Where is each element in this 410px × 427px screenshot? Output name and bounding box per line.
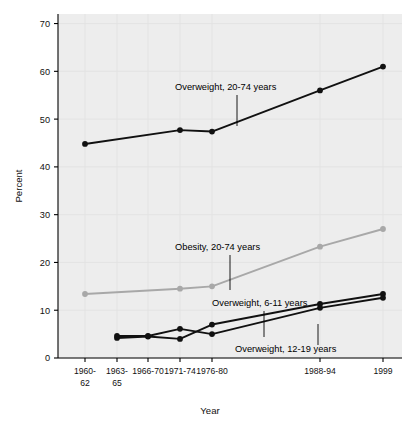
- chart-container: 010203040506070 1960-621963-651966-70197…: [0, 0, 410, 427]
- y-tick-label: 20: [40, 258, 50, 268]
- data-point: [209, 283, 215, 289]
- y-axis-title: Percent: [13, 169, 24, 202]
- x-tick-label: 1976-80: [196, 366, 228, 376]
- annotation-label-overweight-children: Overweight, 6-11 years: [212, 298, 308, 308]
- data-point: [177, 127, 183, 133]
- annotation-label-obesity-adults: Obesity, 20-74 years: [175, 242, 260, 252]
- y-tick-label: 40: [40, 162, 50, 172]
- data-point: [317, 88, 323, 94]
- data-point: [380, 64, 386, 70]
- line-chart: 010203040506070 1960-621963-651966-70197…: [0, 0, 410, 427]
- x-tick-label: 1971-74: [164, 366, 196, 376]
- y-tick-label: 50: [40, 115, 50, 125]
- data-point: [317, 305, 323, 311]
- data-point: [209, 322, 215, 328]
- data-point: [317, 244, 323, 250]
- data-point: [145, 333, 151, 339]
- x-tick-label: 1988-94: [304, 366, 336, 376]
- data-point: [380, 295, 386, 301]
- x-tick-label-second-line: 62: [80, 378, 90, 388]
- data-point: [209, 129, 215, 135]
- x-tick-label-second-line: 65: [112, 378, 122, 388]
- data-point: [380, 226, 386, 232]
- data-point: [209, 331, 215, 337]
- data-point: [82, 141, 88, 147]
- x-tick-label: 1999: [373, 366, 392, 376]
- y-tick-label: 30: [40, 210, 50, 220]
- y-tick-label: 10: [40, 306, 50, 316]
- x-tick-label: 1960-: [74, 366, 96, 376]
- y-tick-label: 70: [40, 19, 50, 29]
- x-tick-label: 1966-70: [132, 366, 164, 376]
- data-point: [177, 326, 183, 332]
- data-point: [82, 291, 88, 297]
- data-point: [114, 333, 120, 339]
- x-axis-title: Year: [200, 405, 220, 416]
- x-tick-label: 1963-: [106, 366, 128, 376]
- y-tick-label: 0: [45, 353, 50, 363]
- y-tick-label: 60: [40, 67, 50, 77]
- data-point: [177, 336, 183, 342]
- data-point: [177, 286, 183, 292]
- annotation-label-overweight-teens: Overweight, 12-19 years: [235, 344, 337, 354]
- annotation-label-overweight-adults: Overweight, 20-74 years: [175, 82, 277, 92]
